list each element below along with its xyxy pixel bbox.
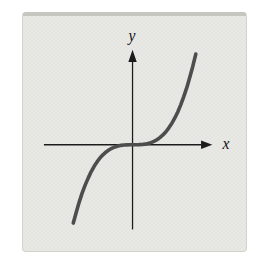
- y-axis-label: y: [127, 27, 136, 45]
- cubic-function-curve: [73, 54, 195, 223]
- y-axis-arrowhead-icon: [128, 50, 136, 62]
- plot-svg: x y: [23, 16, 246, 251]
- x-axis-label: x: [222, 135, 230, 152]
- x-axis-arrowhead-icon: [201, 141, 212, 149]
- graph-panel: x y: [22, 12, 247, 252]
- figure-canvas: x y: [0, 0, 255, 260]
